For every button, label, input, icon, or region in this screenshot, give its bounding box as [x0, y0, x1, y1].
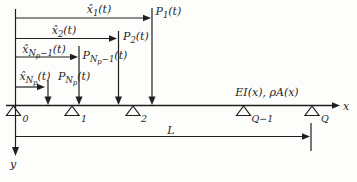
force-label-p2: P2(t) [122, 30, 149, 45]
arrowhead-down-icon [76, 97, 83, 106]
arrowhead-right-icon [109, 35, 117, 42]
pos-label-x2: x̂2(t) [52, 24, 77, 39]
pos-label-xnp: x̂Np(t) [19, 70, 50, 87]
load-arrowheads [45, 97, 156, 106]
length-label: L [166, 124, 174, 137]
force-label-pnp: PNp(t) [57, 70, 90, 87]
y-axis-arrowhead-down-icon [12, 147, 19, 156]
support-triangle-q-icon [305, 106, 319, 116]
support-label-q: Q [321, 113, 329, 124]
force-label-pnp1: PNp−1(t) [82, 49, 128, 66]
pos-label-x1: x̂1(t) [87, 3, 112, 18]
y-axis-label: y [9, 158, 17, 171]
support-label-q1: Q−1 [252, 113, 274, 124]
length-dimension [16, 123, 311, 151]
arrowhead-right-icon [37, 84, 45, 91]
support-label-0: 0 [23, 113, 29, 124]
support-label-2: 2 [140, 113, 147, 124]
support-triangle-1-icon [65, 106, 79, 116]
support-triangle-q1-icon [237, 106, 251, 116]
beam-property-label: EI(x), ρA(x) [234, 86, 298, 99]
x-axis-label: x [343, 100, 350, 113]
force-label-p1: P1(t) [155, 5, 182, 20]
support-triangle-0-icon [7, 106, 21, 116]
support-triangle-2-icon [126, 106, 140, 116]
x-axis-arrowhead-icon [332, 102, 340, 109]
beam-moving-loads-figure: y x̂1(t) x̂2(t) x̂Np−1(t) x̂Np(t) P1(t) … [0, 0, 357, 182]
figure-canvas: y x̂1(t) x̂2(t) x̂Np−1(t) x̂Np(t) P1(t) … [0, 0, 357, 182]
length-arrowhead-icon [302, 133, 310, 140]
arrowhead-down-icon [149, 97, 156, 106]
arrowhead-right-icon [70, 54, 78, 61]
support-label-1: 1 [81, 113, 87, 124]
arrowhead-down-icon [45, 97, 52, 106]
arrowhead-down-icon [115, 97, 122, 106]
arrowhead-right-icon [143, 15, 151, 22]
